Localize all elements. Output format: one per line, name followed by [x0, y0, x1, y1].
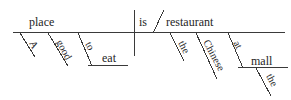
label-object-article: the [264, 72, 280, 89]
label-preposition: at [231, 39, 244, 51]
label-pn-adjective: Chinese [201, 38, 227, 73]
label-pn-article: the [176, 39, 192, 56]
label-subject-adjective: good [54, 38, 74, 62]
label-subject-article: A [27, 39, 40, 51]
label-verb: is [139, 15, 147, 29]
label-predicate-nominative: restaurant [166, 15, 214, 29]
diagram-canvas: place is restaurant eat mall A good to t… [0, 0, 291, 100]
label-subject: place [29, 15, 54, 29]
label-infinitive-verb: eat [102, 51, 117, 65]
predicate-nominative-divider [153, 10, 164, 33]
label-object-of-preposition: mall [251, 54, 273, 68]
sentence-diagram: place is restaurant eat mall A good to t… [0, 0, 291, 100]
